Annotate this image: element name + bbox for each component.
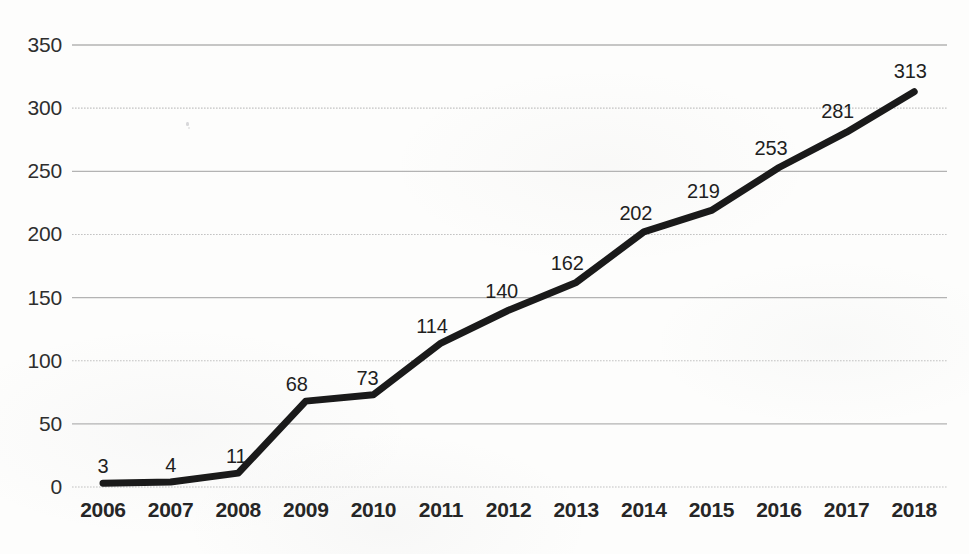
data-point-label: 73 [356, 367, 378, 390]
y-tick-label: 50 [0, 412, 62, 436]
y-tick-label: 350 [0, 33, 62, 57]
data-point-label: 140 [485, 280, 518, 303]
x-tick-label: 2018 [891, 498, 937, 522]
x-tick-label: 2013 [553, 498, 599, 522]
y-tick-label: 300 [0, 96, 62, 120]
y-tick-label: 150 [0, 286, 62, 310]
x-tick-label: 2014 [621, 498, 667, 522]
x-tick-label: 2017 [824, 498, 870, 522]
data-point-label: 11 [226, 445, 246, 468]
data-point-label: 162 [551, 252, 584, 275]
chart-plot-area [0, 0, 969, 554]
x-tick-label: 2011 [419, 498, 463, 522]
x-tick-label: 2008 [215, 498, 261, 522]
x-tick-label: 2016 [756, 498, 802, 522]
gridlines [72, 45, 947, 487]
line-chart: 050100150200250300350 200620072008200920… [0, 0, 969, 554]
y-tick-label: 0 [0, 475, 62, 499]
data-point-label: 253 [755, 137, 788, 160]
data-point-label: 3 [98, 455, 109, 478]
data-point-label: 219 [687, 180, 720, 203]
x-tick-label: 2009 [283, 498, 329, 522]
x-tick-label: 2010 [351, 498, 397, 522]
data-point-label: 202 [619, 202, 652, 225]
data-point-label: 281 [821, 100, 854, 123]
x-tick-label: 2007 [148, 498, 194, 522]
data-point-label: 114 [416, 315, 447, 338]
x-tick-label: 2012 [486, 498, 532, 522]
y-tick-label: 100 [0, 349, 62, 373]
data-point-label: 4 [165, 454, 176, 477]
data-point-label: 68 [286, 373, 308, 396]
x-tick-label: 2015 [689, 498, 735, 522]
x-tick-label: 2006 [80, 498, 126, 522]
y-tick-label: 250 [0, 159, 62, 183]
y-tick-label: 200 [0, 222, 62, 246]
data-point-label: 313 [894, 60, 927, 83]
